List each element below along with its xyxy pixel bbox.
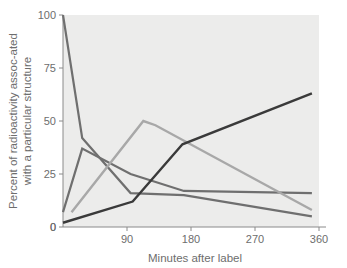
y-axis-ticks: [59, 15, 63, 227]
y-tick-labels: 0255075100: [38, 9, 56, 233]
x-axis-title: Minutes after label: [148, 252, 242, 264]
x-tick-label: 180: [182, 233, 200, 245]
line-chart: 0255075100 090180270360 Minutes after la…: [0, 0, 347, 268]
plot-background: [63, 15, 319, 227]
y-tick-label: 75: [44, 62, 56, 74]
y-axis-title-line-2: with a particular structure: [21, 57, 33, 186]
y-axis-title-line-1: Percent of radioactivity assoc-ated: [7, 33, 19, 209]
y-tick-label: 25: [44, 168, 56, 180]
y-tick-label: 100: [38, 9, 56, 21]
x-tick-label: 360: [310, 233, 328, 245]
x-tick-label: 270: [246, 233, 264, 245]
x-tick-label: 90: [121, 233, 133, 245]
y-tick-label: 50: [44, 115, 56, 127]
x-axis-ticks: [127, 227, 319, 231]
x-tick-label: 0: [50, 221, 56, 233]
